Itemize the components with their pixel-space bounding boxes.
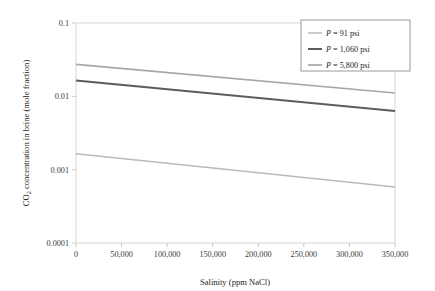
x-tick-label: 350,000 — [382, 250, 409, 259]
y-tick-label: 0.001 — [51, 166, 69, 175]
y-tick-label: 0.0001 — [46, 239, 69, 248]
chart-legend: P = 91 psiP = 1,060 psiP = 5,800 psi — [301, 20, 410, 71]
x-tick-label: 250,000 — [291, 250, 318, 259]
co2-solubility-line-chart: 0.00010.0010.010.1 050,000100,000150,000… — [0, 0, 435, 291]
x-tick-label: 0 — [74, 250, 78, 259]
x-tick-label: 50,000 — [110, 250, 133, 259]
legend-label: P = 91 psi — [325, 29, 360, 38]
legend-label: P = 5,800 psi — [325, 61, 370, 70]
x-tick-label: 100,000 — [154, 250, 181, 259]
x-axis-title: Salinity (ppm NaCl) — [200, 277, 270, 287]
x-tick-label: 200,000 — [245, 250, 272, 259]
y-tick-label: 0.1 — [59, 19, 69, 28]
y-tick-label: 0.01 — [55, 92, 69, 101]
y-axis-title: CO2 concentration in brine (mole fractio… — [21, 60, 32, 207]
legend-label: P = 1,060 psi — [325, 45, 370, 54]
chart-figure: 0.00010.0010.010.1 050,000100,000150,000… — [0, 0, 435, 291]
x-tick-label: 300,000 — [336, 250, 363, 259]
x-tick-label: 150,000 — [199, 250, 226, 259]
